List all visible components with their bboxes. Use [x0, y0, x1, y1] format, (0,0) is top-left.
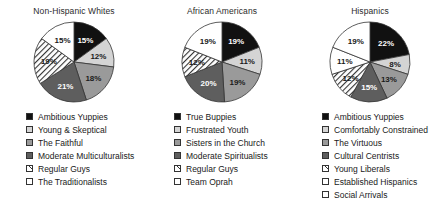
- pie-slice-label: 13%: [381, 75, 397, 84]
- chart-panel-non-hispanic-whites: Non-Hispanic Whites 15%12%18%21%19%15% A…: [0, 0, 148, 212]
- legend-item[interactable]: Young & Skeptical: [26, 123, 148, 136]
- legend-item[interactable]: Regular Guys: [26, 162, 148, 175]
- pie-slice-label: 12%: [343, 74, 359, 83]
- pie-slice-label: 15%: [77, 36, 93, 45]
- pie-slice-label: 8%: [389, 60, 401, 69]
- legend-swatch-icon: [174, 113, 181, 120]
- legend-swatch-icon: [26, 152, 33, 159]
- pie-slice-label: 15%: [55, 36, 71, 45]
- pie-svg: 19%11%19%20%12%19%: [180, 20, 264, 104]
- pie-slice-label: 21%: [57, 82, 73, 91]
- legend-item-label: Comfortably Constrained: [334, 125, 428, 135]
- pie-chart-african-americans: 19%11%19%20%12%19%: [180, 20, 264, 104]
- legend-item-label: Frustrated Youth: [186, 125, 248, 135]
- legend-item-label: Moderate Spiritualists: [186, 151, 268, 161]
- legend-item[interactable]: Established Hispanics: [322, 175, 444, 188]
- legend-item[interactable]: Social Arrivals: [322, 188, 444, 201]
- legend-swatch-icon: [26, 126, 33, 133]
- legend-item[interactable]: Ambitious Yuppies: [322, 110, 444, 123]
- legend-swatch-icon: [322, 165, 329, 172]
- pie-slice-label: 11%: [239, 57, 255, 66]
- pie-slice-label: 19%: [41, 57, 57, 66]
- legend-item[interactable]: Young Liberals: [322, 162, 444, 175]
- legend-swatch-icon: [174, 178, 181, 185]
- legend-item-label: Sisters in the Church: [186, 138, 265, 148]
- legend-item-label: Ambitious Yuppies: [334, 112, 404, 122]
- legend-swatch-icon: [322, 152, 329, 159]
- legend-swatch-icon: [26, 139, 33, 146]
- legend-swatch-icon: [26, 113, 33, 120]
- chart-title: African Americans: [148, 0, 296, 16]
- pie-svg: 15%12%18%21%19%15%: [32, 20, 116, 104]
- pie-slice-label: 19%: [200, 37, 216, 46]
- legend-item[interactable]: The Traditionalists: [26, 175, 148, 188]
- pie-slice-label: 18%: [85, 74, 101, 83]
- legend-item[interactable]: Moderate Multiculturalists: [26, 149, 148, 162]
- pie-svg: 22%8%13%15%12%11%19%: [328, 20, 412, 104]
- legend-item[interactable]: Cultural Centrists: [322, 149, 444, 162]
- pie-slice-label: 22%: [378, 39, 394, 48]
- pie-slice-label: 12%: [90, 52, 106, 61]
- legend-item-label: The Faithful: [38, 138, 83, 148]
- legend-item[interactable]: Regular Guys: [174, 162, 296, 175]
- chart-panel-african-americans: African Americans 19%11%19%20%12%19% Tru…: [148, 0, 296, 212]
- legend-swatch-icon: [174, 152, 181, 159]
- chart-title: Non-Hispanic Whites: [0, 0, 148, 16]
- legend-item[interactable]: The Faithful: [26, 136, 148, 149]
- legend-swatch-icon: [174, 165, 181, 172]
- legend-swatch-icon: [174, 139, 181, 146]
- legend-item-label: Regular Guys: [38, 164, 90, 174]
- legend-swatch-icon: [322, 191, 329, 198]
- legend-swatch-icon: [322, 139, 329, 146]
- chart-legend: Ambitious YuppiesComfortably Constrained…: [296, 110, 444, 201]
- chart-panel-hispanics: Hispanics 22%8%13%15%12%11%19% Ambitious…: [296, 0, 444, 212]
- legend-swatch-icon: [26, 165, 33, 172]
- legend-item-label: Cultural Centrists: [334, 151, 399, 161]
- pie-chart-non-hispanic-whites: 15%12%18%21%19%15%: [32, 20, 116, 104]
- legend-swatch-icon: [322, 178, 329, 185]
- legend-item[interactable]: Frustrated Youth: [174, 123, 296, 136]
- legend-item-label: Moderate Multiculturalists: [38, 151, 134, 161]
- legend-item[interactable]: Moderate Spiritualists: [174, 149, 296, 162]
- pie-slice-label: 12%: [189, 58, 205, 67]
- pie-slice-label: 11%: [337, 57, 353, 66]
- legend-item-label: The Virtuous: [334, 138, 382, 148]
- legend-item-label: Social Arrivals: [334, 190, 387, 200]
- legend-item[interactable]: Sisters in the Church: [174, 136, 296, 149]
- legend-item[interactable]: Comfortably Constrained: [322, 123, 444, 136]
- pie-slice-label: 19%: [229, 78, 245, 87]
- legend-item-label: Young & Skeptical: [38, 125, 107, 135]
- legend-item[interactable]: The Virtuous: [322, 136, 444, 149]
- legend-item-label: The Traditionalists: [38, 177, 107, 187]
- legend-swatch-icon: [322, 126, 329, 133]
- legend-item[interactable]: Team Oprah: [174, 175, 296, 188]
- legend-item-label: Ambitious Yuppies: [38, 112, 108, 122]
- pie-slice-label: 19%: [348, 37, 364, 46]
- pie-slice-label: 19%: [228, 37, 244, 46]
- legend-item-label: Team Oprah: [186, 177, 233, 187]
- chart-title: Hispanics: [296, 0, 444, 16]
- legend-item-label: Regular Guys: [186, 164, 238, 174]
- chart-legend: True BuppiesFrustrated YouthSisters in t…: [148, 110, 296, 188]
- pie-slice-label: 20%: [200, 79, 216, 88]
- pie-chart-hispanics: 22%8%13%15%12%11%19%: [328, 20, 412, 104]
- pie-slice-label: 15%: [361, 83, 377, 92]
- legend-item[interactable]: True Buppies: [174, 110, 296, 123]
- legend-swatch-icon: [322, 113, 329, 120]
- legend-item-label: Young Liberals: [334, 164, 390, 174]
- legend-item-label: Established Hispanics: [334, 177, 417, 187]
- legend-swatch-icon: [26, 178, 33, 185]
- pie-chart-panel-group: Non-Hispanic Whites 15%12%18%21%19%15% A…: [0, 0, 444, 212]
- legend-item[interactable]: Ambitious Yuppies: [26, 110, 148, 123]
- legend-item-label: True Buppies: [186, 112, 236, 122]
- legend-swatch-icon: [174, 126, 181, 133]
- chart-legend: Ambitious YuppiesYoung & SkepticalThe Fa…: [0, 110, 148, 188]
